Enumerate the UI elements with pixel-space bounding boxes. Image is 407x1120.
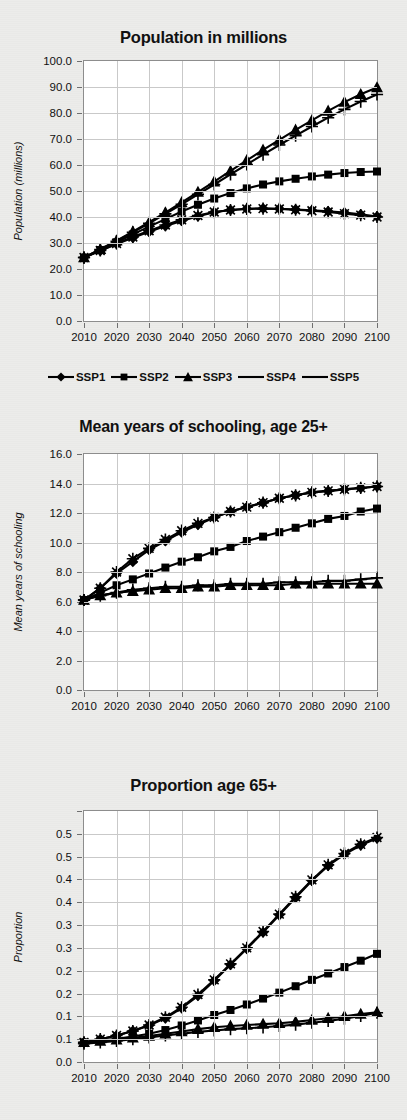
x-axis-tick-label: 2060 [234,331,260,343]
data-point-marker-asterisk [290,489,302,501]
gridline-vertical [117,61,118,321]
y-axis-tick-mark [77,243,82,244]
y-axis-tick-label: 100.0 [0,55,76,67]
legend-item-SSP2[interactable]: SSP2 [111,367,168,385]
y-axis-tick-mark [77,661,82,662]
x-axis-tick-mark [182,692,183,697]
y-axis-tick-mark [77,834,82,835]
legend-marker-diamond-icon [48,370,74,384]
legend-item-SSP4[interactable]: SSP4 [238,367,295,385]
gridline-horizontal [84,925,377,926]
data-point-marker-asterisk [78,251,90,263]
y-axis-tick-mark [77,971,82,972]
y-axis-tick-mark [77,994,82,995]
data-point-marker-asterisk [290,204,302,216]
chart-panel-schooling: Mean years of schooling, age 25+ 0.02.04… [0,400,407,750]
legend-label: SSP3 [203,371,232,383]
x-axis-tick-mark [149,1064,150,1069]
y-axis-tick-mark [77,513,82,514]
gridline-vertical [312,61,313,321]
data-point-marker-asterisk [224,958,236,970]
x-axis-tick-mark [149,323,150,328]
x-axis-tick-mark [84,323,85,328]
x-axis-tick-label: 2020 [104,1072,130,1084]
y-axis-tick-label: 20.0 [0,263,76,275]
data-point-marker-square [358,957,364,963]
legend-item-SSP1[interactable]: SSP1 [48,367,105,385]
gridline-vertical [344,454,345,690]
data-point-marker-square [325,171,331,177]
data-point-marker-asterisk [94,244,106,256]
x-axis-tick-mark [214,323,215,328]
x-axis-tick-label: 2070 [267,700,293,712]
gridline-vertical [214,61,215,321]
gridline-vertical [182,454,183,690]
data-point-marker-plus [371,572,383,584]
x-axis-tick-mark [279,323,280,328]
gridline-vertical [182,811,183,1062]
data-point-marker-asterisk [257,203,269,215]
x-axis-tick-label: 2050 [201,331,227,343]
legend-marker-asterisk-icon [302,370,328,384]
x-axis-tick-mark [117,323,118,328]
data-point-marker-asterisk [78,594,90,606]
x-axis-tick-mark [377,323,378,328]
gridline-vertical [149,61,150,321]
x-axis-tick-label: 2010 [71,331,97,343]
y-axis-tick-label: 14.0 [0,478,76,490]
legend-item-SSP5[interactable]: SSP5 [302,367,359,385]
y-axis-tick-mark [77,191,82,192]
y-axis-tick-mark [77,902,82,903]
x-axis-tick-mark [182,1064,183,1069]
x-axis-tick-mark [312,692,313,697]
gridline-vertical [344,61,345,321]
y-axis-tick-mark [77,454,82,455]
data-point-marker-square [374,505,380,511]
data-point-marker-square [162,564,168,570]
x-axis-tick-mark [182,323,183,328]
y-axis-tick-label: 0.1 [0,1010,76,1022]
gridline-horizontal [84,543,377,544]
x-axis-tick-mark [247,1064,248,1069]
data-point-marker-square [260,533,266,539]
gridline-vertical [117,454,118,690]
x-axis-tick-label: 2090 [332,331,358,343]
x-axis-tick-mark [214,1064,215,1069]
gridline-vertical [214,811,215,1062]
x-axis-tick-label: 2060 [234,700,260,712]
gridline-horizontal [84,631,377,632]
gridline-vertical [149,811,150,1062]
gridline-horizontal [84,661,377,662]
x-axis-tick-label: 2010 [71,1072,97,1084]
data-point-marker-asterisk [355,838,367,850]
x-axis-tick-mark [214,692,215,697]
data-point-marker-plus [322,575,334,587]
y-axis-tick-mark [77,879,82,880]
y-axis-tick-mark [77,321,82,322]
x-axis-tick-label: 2030 [136,700,162,712]
x-axis-tick-mark [344,323,345,328]
gridline-vertical [117,811,118,1062]
chart-title-proportion: Proportion age 65+ [0,776,407,795]
x-axis-tick-label: 2080 [299,700,325,712]
data-point-marker-square [260,181,266,187]
chart-panel-proportion: Proportion age 65+ 0.00.10.10.20.20.30.3… [0,750,407,1120]
gridline-horizontal [84,243,377,244]
x-axis-tick-label: 2040 [169,1072,195,1084]
y-axis-tick-label: 0.2 [0,965,76,977]
y-axis-tick-mark [77,113,82,114]
y-axis-tick-mark [77,690,82,691]
legend-item-SSP3[interactable]: SSP3 [175,367,232,385]
x-axis-tick-label: 2020 [104,700,130,712]
y-axis-tick-label: 2.0 [0,655,76,667]
gridline-horizontal [84,191,377,192]
legend-label: SSP4 [266,371,295,383]
gridline-horizontal [84,1039,377,1040]
data-point-marker-square [292,176,298,182]
x-axis-tick-mark [117,1064,118,1069]
y-axis-tick-mark [77,295,82,296]
x-axis-tick-mark [84,692,85,697]
y-axis-label-proportion: Proportion [12,911,24,962]
gridline-horizontal [84,879,377,880]
gridline-vertical [279,61,280,321]
